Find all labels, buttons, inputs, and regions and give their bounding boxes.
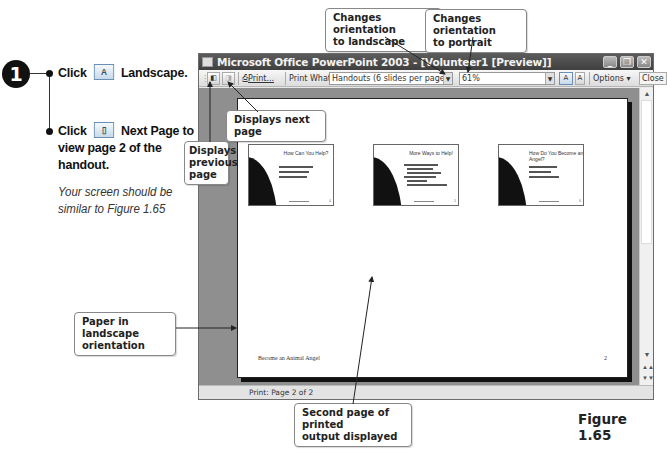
page-number: 2	[604, 355, 607, 361]
slide-footer	[539, 201, 559, 202]
page-footer: Become an Animal Angel	[258, 355, 320, 361]
next-page-button[interactable]: ◨	[222, 72, 235, 85]
slide-title: How Can You Help?	[277, 150, 334, 156]
instruction-text: Click	[58, 65, 87, 80]
note-text: similar to Figure 1.65	[58, 202, 165, 216]
instruction-text: handout.	[58, 157, 109, 172]
close-window-button[interactable]: ✕	[637, 56, 651, 68]
callout-text: page	[189, 169, 217, 180]
powerpoint-window: Microsoft Office PowerPoint 2003 - [Volu…	[198, 53, 654, 400]
instruction-text: view page 2 of the	[58, 140, 162, 155]
callout-text: orientation	[82, 340, 145, 351]
callout-portrait: Changes orientation to portrait	[425, 9, 527, 53]
next-page-icon: ▯	[94, 122, 114, 138]
print-what-value: Handouts (6 slides per page)	[332, 74, 448, 83]
callout-text: Second page of printed	[302, 407, 389, 430]
toolbar-separator	[285, 72, 286, 85]
maximize-button[interactable]: ❐	[620, 56, 634, 68]
slide-title: More Ways to Help!	[402, 150, 459, 156]
slide-title: How Do You Become an Angel?	[529, 150, 584, 162]
print-what-dropdown[interactable]: Handouts (6 slides per page) ▼	[329, 72, 453, 85]
next-page-scroll-icon[interactable]: ▼▼	[642, 373, 652, 383]
landscape-button[interactable]: A	[559, 72, 573, 85]
instruction-text: Click	[58, 123, 87, 138]
zoom-dropdown[interactable]: 61% ▼	[459, 72, 555, 85]
slide-number: 6	[579, 199, 581, 203]
callout-text: to portrait	[433, 37, 492, 48]
slide-footer	[289, 201, 309, 202]
instruction-note: Your screen should be similar to Figure …	[58, 184, 172, 218]
slide-thumbnail: How Can You Help? 4	[248, 144, 334, 206]
vertical-scrollbar[interactable]: ▲ ▼ ▲▲ ▼▼	[639, 88, 653, 386]
callout-text: Changes orientation	[333, 12, 396, 35]
slide-footer	[414, 201, 434, 202]
print-button[interactable]: ⎙Print...	[242, 72, 274, 85]
instruction-text: Landscape.	[121, 65, 187, 80]
app-icon	[202, 57, 213, 67]
slide-decoration	[373, 157, 402, 206]
zoom-value: 61%	[462, 74, 480, 83]
print-preview-toolbar: ⋮ ◧ ◨ ⎙Print... Print What: Handouts (6 …	[199, 70, 653, 87]
callout-text: Displays	[189, 145, 236, 156]
print-label: Print...	[248, 74, 274, 83]
scroll-up-icon[interactable]: ▲	[642, 89, 652, 99]
callout-text: to landscape	[333, 36, 405, 47]
print-what-label: Print What:	[289, 72, 334, 85]
callout-text: Paper in landscape	[82, 316, 139, 339]
callout-next-page: Displays next page	[226, 110, 326, 142]
callout-second-page: Second page of printed output displayed	[294, 403, 412, 447]
callout-text: output displayed	[302, 431, 397, 442]
slide-thumbnail: More Ways to Help! 5	[373, 144, 459, 206]
slide-decoration	[248, 157, 277, 206]
scroll-thumb[interactable]	[641, 100, 652, 244]
callout-paper-landscape: Paper in landscape orientation	[74, 312, 176, 356]
step-number-badge: 1	[2, 60, 30, 88]
step-connector-vertical	[49, 74, 50, 132]
slide-number: 4	[329, 199, 331, 203]
callout-text: previous	[189, 157, 238, 168]
options-button[interactable]: Options ▾	[593, 72, 630, 85]
note-text: Your screen should be	[58, 185, 172, 199]
close-preview-button[interactable]: Close	[639, 72, 667, 85]
scroll-down-icon[interactable]: ▼	[642, 350, 652, 360]
chevron-down-icon[interactable]: ▼	[545, 73, 554, 84]
figure-label: Figure 1.65	[578, 411, 659, 443]
previous-page-scroll-icon[interactable]: ▲▲	[642, 362, 652, 372]
instruction-text: Next Page to	[121, 123, 194, 138]
window-title: Microsoft Office PowerPoint 2003 - [Volu…	[217, 56, 551, 68]
slide-decoration	[498, 157, 527, 206]
toolbar-separator	[238, 72, 239, 85]
slide-thumbnail: How Do You Become an Angel? 6	[498, 144, 584, 206]
instruction-step-2: Click ▯ Next Page to view page 2 of the …	[58, 122, 194, 173]
slide-number: 5	[454, 199, 456, 203]
bullet-dot	[46, 128, 53, 135]
toolbar-separator	[589, 72, 590, 85]
chevron-down-icon[interactable]: ▼	[443, 73, 452, 84]
minimize-button[interactable]: _	[603, 56, 617, 68]
previous-page-button[interactable]: ◧	[207, 72, 220, 85]
callout-previous-page: Displays previous page	[184, 141, 229, 185]
title-bar: Microsoft Office PowerPoint 2003 - [Volu…	[199, 54, 653, 70]
status-bar: Print: Page 2 of 2	[199, 385, 653, 399]
instruction-step-1: Click A Landscape.	[58, 64, 187, 81]
callout-text: Changes orientation	[433, 13, 496, 36]
bullet-dot	[46, 70, 53, 77]
landscape-icon: A	[94, 64, 114, 80]
portrait-button[interactable]: A	[575, 72, 585, 85]
